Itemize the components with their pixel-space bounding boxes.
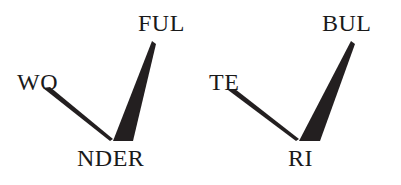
- label-ri: RI: [288, 146, 313, 170]
- wedge-bul: [299, 41, 355, 141]
- wedge-wo: [43, 87, 113, 141]
- label-wo: WO: [17, 70, 58, 94]
- wedge-te: [228, 89, 299, 141]
- label-bul: BUL: [322, 11, 372, 35]
- label-nder: NDER: [77, 146, 144, 170]
- diagram-canvas: WO FUL NDER TE BUL RI: [0, 0, 401, 185]
- label-te: TE: [209, 70, 239, 94]
- label-ful: FUL: [138, 11, 185, 35]
- wedge-ful: [113, 41, 156, 141]
